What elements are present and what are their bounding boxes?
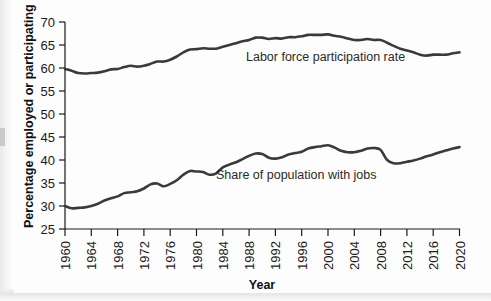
y-tick-label: 70 bbox=[41, 15, 55, 30]
x-tick-label: 1968 bbox=[111, 241, 126, 270]
x-tick-label: 1960 bbox=[58, 241, 73, 270]
y-tick-label: 50 bbox=[41, 107, 55, 122]
x-tick-label: 1964 bbox=[84, 241, 99, 270]
y-tick-label: 45 bbox=[41, 130, 55, 145]
x-tick-label: 2020 bbox=[453, 241, 468, 270]
x-tick-label: 1996 bbox=[295, 241, 310, 270]
x-tick-label: 1980 bbox=[190, 241, 205, 270]
y-tick-label: 65 bbox=[41, 38, 55, 53]
chart-canvas: 70 65 60 55 50 45 40 35 30 25 bbox=[14, 0, 491, 293]
x-tick-label: 1988 bbox=[242, 241, 257, 270]
x-tick-label: 2004 bbox=[347, 241, 362, 270]
x-tick-label: 1976 bbox=[163, 241, 178, 270]
x-axis-title: Year bbox=[249, 278, 276, 292]
line-chart-figure: 70 65 60 55 50 45 40 35 30 25 bbox=[14, 0, 491, 293]
x-tick-label: 2000 bbox=[321, 241, 336, 270]
series-annotation-share-with-jobs: Share of population with jobs bbox=[216, 168, 377, 182]
x-tick-label: 1984 bbox=[216, 241, 231, 270]
x-tick-label: 2016 bbox=[426, 241, 441, 270]
y-tick-label: 40 bbox=[41, 153, 55, 168]
y-tick-label: 35 bbox=[41, 176, 55, 191]
x-tick-label: 1972 bbox=[137, 241, 152, 270]
x-tick-label: 1992 bbox=[268, 241, 283, 270]
page-left-edge-artifact bbox=[0, 0, 14, 301]
y-tick-label: 25 bbox=[41, 222, 55, 237]
series-annotation-labor-force: Labor force participation rate bbox=[246, 50, 405, 64]
y-tick-label: 30 bbox=[41, 199, 55, 214]
y-tick-label: 60 bbox=[41, 61, 55, 76]
x-tick-label: 2012 bbox=[400, 241, 415, 270]
y-axis-title: Percentage employed or participating bbox=[22, 4, 36, 228]
chart-page: 70 65 60 55 50 45 40 35 30 25 bbox=[0, 0, 491, 301]
page-left-margin-mark bbox=[0, 128, 5, 146]
y-tick-label: 55 bbox=[41, 84, 55, 99]
x-tick-label: 2008 bbox=[374, 241, 389, 270]
